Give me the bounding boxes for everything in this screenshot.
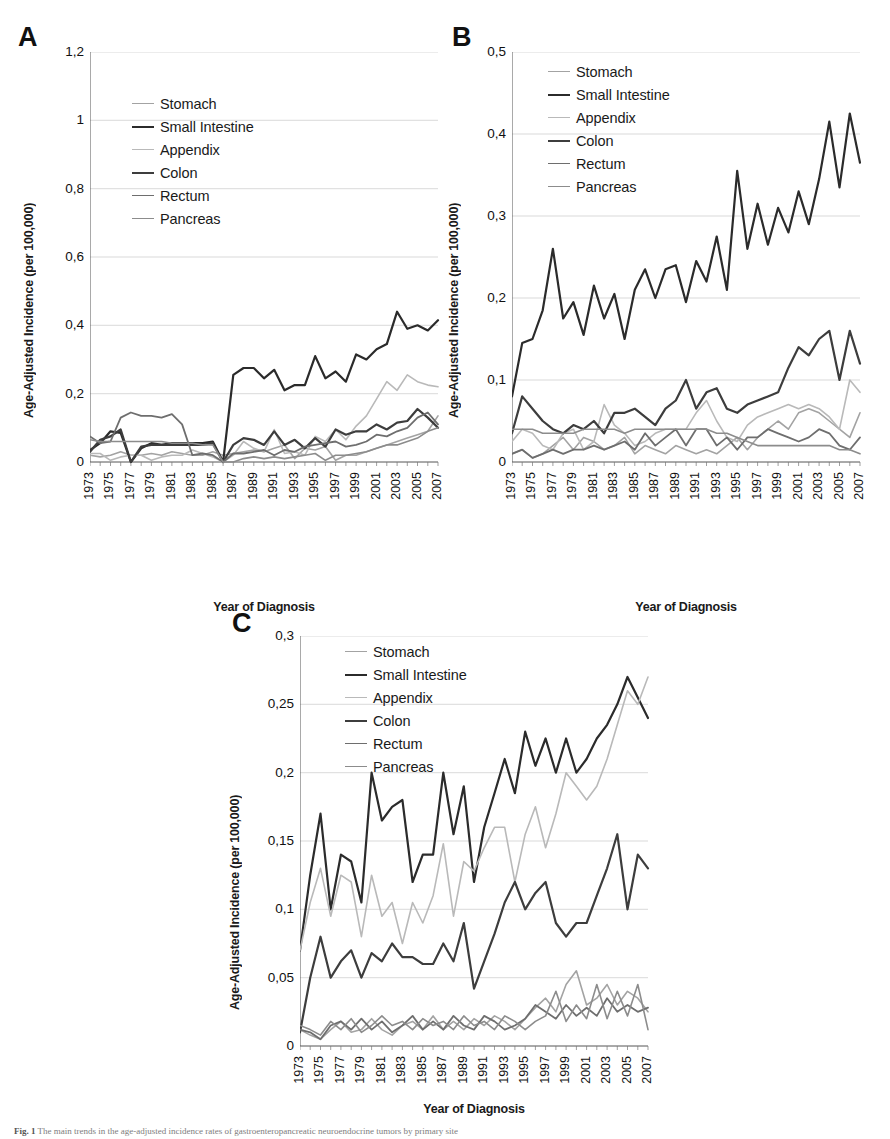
x-tick-label: 1977 [334,1056,347,1084]
legend-label: Small Intestine [160,119,254,135]
x-tick-label: 1995 [730,472,743,500]
x-tick-label: 1983 [395,1056,408,1084]
x-tick-label: 1991 [689,472,702,500]
legend-label: Appendix [160,142,220,158]
panel-a-legend: StomachSmall IntestineAppendixColonRectu… [132,92,254,230]
legend-label: Stomach [576,64,633,80]
legend-label: Pancreas [160,211,220,227]
x-tick-label: 2003 [812,472,825,500]
y-tick-label: 0,5 [462,45,506,59]
legend-label: Colon [373,713,410,729]
legend-swatch-icon [345,674,367,676]
legend-label: Colon [160,165,197,181]
figure-caption-label: Fig. 1 [14,1126,36,1136]
legend-label: Small Intestine [373,667,467,683]
y-tick-label: 0,3 [462,209,506,223]
x-tick-label: 1999 [349,472,362,500]
x-tick-label: 1979 [354,1056,367,1084]
legend-label: Rectum [160,188,209,204]
panel-a-x-axis-label: Year of Diagnosis [90,600,438,614]
y-tick-label: 0,05 [250,971,294,985]
panel-b-y-axis-label: Age-Adjusted Incidence (per 100,000) [447,118,461,418]
y-tick-label: 0,1 [462,373,506,387]
x-tick-label: 1981 [375,1056,388,1084]
x-tick-label: 1995 [518,1056,531,1084]
x-tick-label: 1993 [288,472,301,500]
legend-swatch-icon [345,743,367,744]
x-tick-label: 1975 [103,472,116,500]
legend-swatch-icon [548,71,570,72]
legend-swatch-icon [548,94,570,96]
y-tick-label: 0 [40,455,84,469]
x-tick-label: 1985 [416,1056,429,1084]
legend-label: Colon [576,133,613,149]
legend-swatch-icon [345,697,367,698]
y-tick-label: 0,2 [250,766,294,780]
x-tick-label: 1999 [559,1056,572,1084]
y-tick-label: 0 [462,455,506,469]
x-tick-label: 1995 [308,472,321,500]
x-tick-label: 1989 [669,472,682,500]
x-tick-label: 2001 [370,472,383,500]
legend-swatch-icon [132,126,154,128]
x-tick-label: 1977 [124,472,137,500]
x-tick-label: 1991 [477,1056,490,1084]
y-tick-label: 0,4 [462,127,506,141]
y-tick-label: 1,2 [40,45,84,59]
panel-b-x-axis-label: Year of Diagnosis [512,600,860,614]
legend-item-rectum: Rectum [345,732,467,755]
legend-swatch-icon [132,195,154,196]
y-tick-label: 0,3 [250,629,294,643]
x-tick-label: 1999 [771,472,784,500]
legend-item-rectum: Rectum [548,152,670,175]
y-tick-label: 0,4 [40,318,84,332]
x-tick-label: 2005 [411,472,424,500]
y-tick-label: 0 [250,1039,294,1053]
x-tick-label: 1997 [539,1056,552,1084]
legend-swatch-icon [132,172,154,174]
x-tick-label: 2007 [431,472,444,500]
y-tick-label: 0,25 [250,697,294,711]
y-tick-label: 1 [40,113,84,127]
legend-item-small-intestine: Small Intestine [548,83,670,106]
x-tick-label: 1987 [436,1056,449,1084]
legend-label: Stomach [373,644,430,660]
x-tick-label: 1983 [185,472,198,500]
y-tick-label: 0,15 [250,834,294,848]
x-tick-label: 2001 [580,1056,593,1084]
legend-item-stomach: Stomach [132,92,254,115]
x-tick-label: 1993 [498,1056,511,1084]
x-tick-label: 1989 [247,472,260,500]
y-tick-label: 0,8 [40,182,84,196]
panel-c-y-axis-label: Age-Adjusted Incidence (per 100,000) [228,700,242,1010]
legend-item-pancreas: Pancreas [132,207,254,230]
legend-swatch-icon [548,163,570,164]
x-tick-label: 1975 [525,472,538,500]
x-tick-label: 1987 [648,472,661,500]
x-tick-label: 1973 [505,472,518,500]
x-tick-label: 1981 [587,472,600,500]
legend-label: Pancreas [373,759,433,775]
panel-b-legend: StomachSmall IntestineAppendixColonRectu… [548,60,670,198]
legend-swatch-icon [132,103,154,104]
legend-swatch-icon [548,117,570,118]
x-tick-label: 1993 [710,472,723,500]
figure-caption-text: The main trends in the age-adjusted inci… [38,1126,458,1136]
legend-swatch-icon [548,140,570,142]
legend-label: Appendix [576,110,636,126]
x-tick-label: 1973 [293,1056,306,1084]
y-tick-label: 0,2 [462,291,506,305]
x-tick-label: 1975 [313,1056,326,1084]
panel-c-legend: StomachSmall IntestineAppendixColonRectu… [345,640,467,778]
legend-item-stomach: Stomach [548,60,670,83]
legend-label: Small Intestine [576,87,670,103]
legend-swatch-icon [345,766,367,767]
legend-item-pancreas: Pancreas [345,755,467,778]
x-tick-label: 1985 [206,472,219,500]
x-tick-label: 1973 [83,472,96,500]
legend-item-pancreas: Pancreas [548,175,670,198]
x-tick-label: 2001 [792,472,805,500]
legend-item-colon: Colon [548,129,670,152]
x-tick-label: 2005 [833,472,846,500]
x-tick-label: 1997 [751,472,764,500]
